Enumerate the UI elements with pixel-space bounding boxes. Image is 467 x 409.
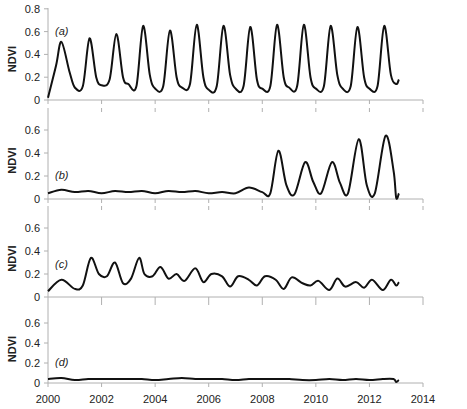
- y-tick-label: 0.8: [25, 3, 40, 15]
- y-axis-title: NDVI: [6, 147, 18, 173]
- ndvi-chart: 00.20.40.60.8NDVI(a)00.20.40.6NDVI(b)00.…: [0, 0, 467, 409]
- y-tick-label: 0: [34, 94, 40, 106]
- panel-label: (d): [55, 356, 69, 368]
- x-tick-label: 2008: [250, 393, 274, 405]
- y-axis-title: NDVI: [6, 245, 18, 271]
- y-tick-label: 0.2: [25, 170, 40, 182]
- panel-d: 00.20.40.6NDVI(d)20002002200420062008201…: [6, 305, 435, 405]
- y-tick-label: 0.4: [25, 245, 40, 257]
- y-tick-label: 0.4: [25, 337, 40, 349]
- x-tick-label: 2014: [411, 393, 435, 405]
- x-tick-label: 2010: [304, 393, 328, 405]
- ndvi-series-line: [48, 135, 399, 198]
- y-tick-label: 0: [34, 193, 40, 205]
- ndvi-series-line: [48, 378, 399, 382]
- panel-label: (a): [55, 25, 69, 37]
- ndvi-series-line: [48, 25, 399, 98]
- panel-label: (c): [55, 258, 68, 270]
- panel-label: (b): [55, 169, 69, 181]
- x-tick-label: 2000: [36, 393, 60, 405]
- y-tick-label: 0: [34, 377, 40, 389]
- y-tick-label: 0.4: [25, 48, 40, 60]
- panel-c: 00.20.40.6NDVI(c): [6, 210, 423, 303]
- panel-a: 00.20.40.60.8NDVI(a): [6, 3, 423, 106]
- panel-b: 00.20.40.6NDVI(b): [6, 112, 423, 205]
- ndvi-series-line: [48, 258, 399, 292]
- y-tick-label: 0.2: [25, 357, 40, 369]
- y-tick-label: 0: [34, 291, 40, 303]
- y-tick-label: 0.6: [25, 317, 40, 329]
- x-tick-label: 2012: [357, 393, 381, 405]
- y-axis-title: NDVI: [6, 46, 18, 72]
- y-tick-label: 0.4: [25, 147, 40, 159]
- y-tick-label: 0.2: [25, 268, 40, 280]
- y-tick-label: 0.6: [25, 222, 40, 234]
- y-axis-title: NDVI: [6, 336, 18, 362]
- x-tick-label: 2004: [143, 393, 167, 405]
- x-tick-label: 2002: [89, 393, 113, 405]
- y-tick-label: 0.6: [25, 124, 40, 136]
- y-tick-label: 0.6: [25, 26, 40, 38]
- y-tick-label: 0.2: [25, 71, 40, 83]
- x-tick-label: 2006: [196, 393, 220, 405]
